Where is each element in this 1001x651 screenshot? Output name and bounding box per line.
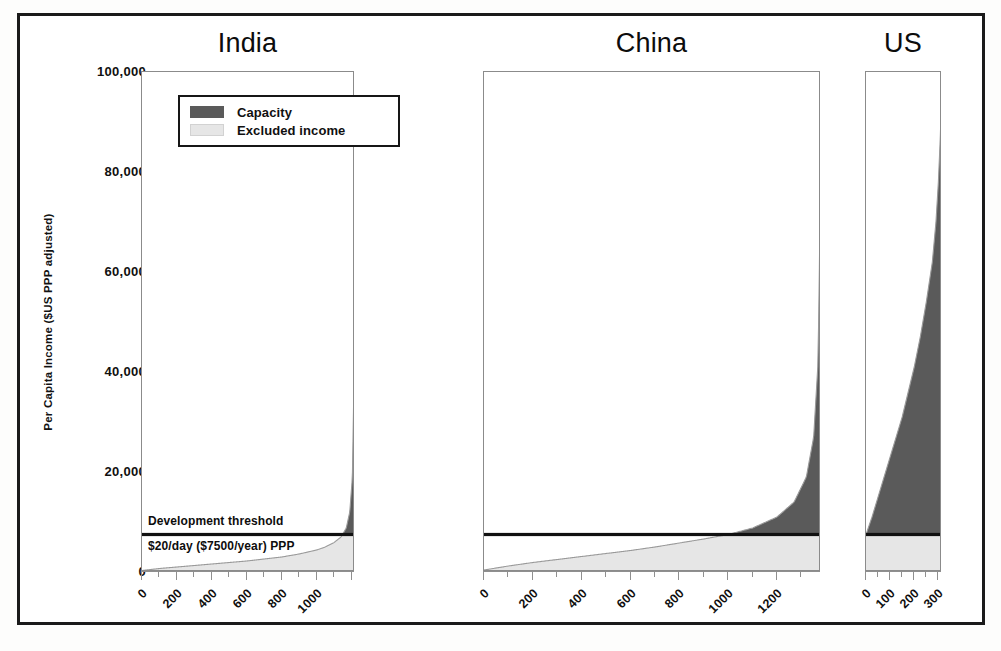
x-axis-tick <box>246 571 247 580</box>
x-axis-tick <box>703 571 704 577</box>
x-axis-tick <box>925 571 926 577</box>
x-axis-tick <box>937 571 938 580</box>
x-axis-tick-label: 1000 <box>680 586 737 643</box>
x-axis-tick <box>281 571 282 580</box>
x-axis-tick <box>507 571 508 577</box>
income-distribution-areas <box>484 72 820 571</box>
x-axis-tick-label: 600 <box>582 586 639 643</box>
panel-title-india: India <box>141 28 354 59</box>
x-axis-tick <box>351 571 352 580</box>
y-axis-ticks: 020,00040,00060,00080,000100,000 <box>60 16 146 651</box>
x-axis-tick <box>158 571 159 577</box>
x-axis-tick <box>263 571 264 577</box>
x-axis-tick-label: 200 <box>484 586 541 643</box>
x-axis-tick <box>605 571 606 577</box>
income-distribution-areas <box>866 72 941 571</box>
y-axis-tick-label: 80,000 <box>60 164 146 179</box>
x-axis-tick <box>228 571 229 577</box>
legend-item-excluded-income: Excluded income <box>190 121 386 139</box>
x-axis-tick <box>865 571 866 580</box>
x-axis-tick <box>901 571 902 577</box>
plot-area-china <box>483 71 820 571</box>
area-capacity <box>729 72 820 535</box>
y-axis-tick-label: 60,000 <box>60 264 146 279</box>
figure-frame: Per Capita Income ($US PPP adjusted) 020… <box>17 13 985 625</box>
x-axis-tick-label: 1200 <box>728 586 785 643</box>
x-axis-tick <box>752 571 753 577</box>
x-axis-tick-label: 0 <box>435 586 492 643</box>
x-axis-tick <box>316 571 317 580</box>
x-axis-tick <box>211 571 212 580</box>
legend-swatch-capacity <box>190 106 224 118</box>
x-axis-tick-label: 400 <box>533 586 590 643</box>
x-axis-tick <box>581 571 582 580</box>
y-axis-tick-label: 100,000 <box>60 64 146 79</box>
y-axis-tick-label: 20,000 <box>60 464 146 479</box>
development-threshold-line <box>866 533 941 536</box>
x-axis-india: 02004006008001000 <box>141 571 354 641</box>
legend-label-excluded-income: Excluded income <box>237 123 345 138</box>
annotation-threshold-value: $20/day ($7500/year) PPP <box>148 539 295 553</box>
development-threshold-line <box>484 533 820 536</box>
y-axis-label: Per Capita Income ($US PPP adjusted) <box>42 122 54 522</box>
x-axis-tick <box>877 571 878 577</box>
x-axis-tick <box>800 571 801 577</box>
x-axis-tick-label: 800 <box>631 586 688 643</box>
x-axis-tick <box>727 571 728 580</box>
x-axis-line <box>141 571 354 572</box>
x-axis-tick <box>889 571 890 580</box>
development-threshold-line <box>142 533 354 536</box>
figure-page: Per Capita Income ($US PPP adjusted) 020… <box>0 0 1001 651</box>
x-axis-tick <box>333 571 334 577</box>
x-axis-tick <box>141 571 142 580</box>
plot-area-us <box>865 71 941 571</box>
panel-title-china: China <box>483 28 820 59</box>
legend: Capacity Excluded income <box>178 95 400 147</box>
legend-label-capacity: Capacity <box>237 105 292 120</box>
x-axis-china: 020040060080010001200 <box>483 571 820 641</box>
x-axis-line <box>483 571 820 572</box>
legend-item-capacity: Capacity <box>190 103 386 121</box>
income-curve <box>484 72 820 570</box>
x-axis-tick <box>556 571 557 577</box>
x-axis-tick <box>678 571 679 580</box>
x-axis-tick <box>776 571 777 580</box>
x-axis-tick <box>630 571 631 580</box>
x-axis-tick <box>532 571 533 580</box>
panel-title-us: US <box>865 28 941 59</box>
area-excluded-income <box>866 535 941 572</box>
legend-swatch-excluded-income <box>190 124 224 136</box>
x-axis-tick <box>176 571 177 580</box>
annotation-development-threshold: Development threshold <box>148 514 283 528</box>
panel-us: US 0100200300 <box>865 16 941 616</box>
x-axis-tick <box>298 571 299 577</box>
area-excluded-income <box>484 535 820 572</box>
area-capacity <box>866 72 941 535</box>
y-axis-tick-label: 0 <box>60 564 146 579</box>
y-axis-tick-label: 40,000 <box>60 364 146 379</box>
x-axis-tick <box>913 571 914 580</box>
x-axis-tick <box>193 571 194 577</box>
x-axis-tick <box>654 571 655 577</box>
x-axis-us: 0100200300 <box>865 571 941 641</box>
x-axis-tick <box>483 571 484 580</box>
panel-china: China 020040060080010001200 <box>483 16 820 616</box>
